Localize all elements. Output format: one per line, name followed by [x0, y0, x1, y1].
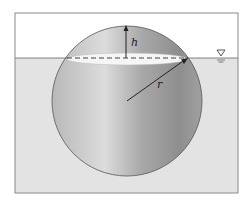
radius-label: r: [157, 78, 163, 91]
height-label: h: [131, 36, 138, 49]
floating-sphere-diagram: h r: [0, 0, 251, 204]
waterline-cross-section: [67, 53, 187, 65]
